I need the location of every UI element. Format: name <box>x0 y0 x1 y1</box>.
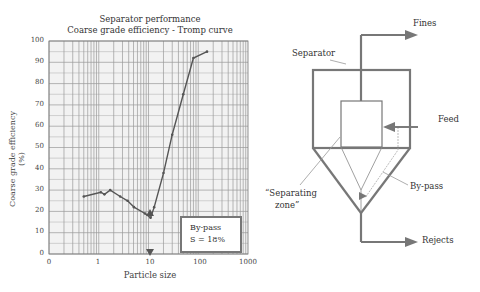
y-tick: 60 <box>18 121 44 129</box>
y-tick: 70 <box>18 100 44 108</box>
bypass-flow-arrow-icon <box>359 192 367 200</box>
separating-zone-box <box>341 101 382 147</box>
rejects-label: Rejects <box>422 235 454 245</box>
bypass-annotation-value: S = 18% <box>190 234 225 245</box>
x-tick: 100 <box>185 258 215 266</box>
plot-svg <box>0 0 480 292</box>
separator-label: Separator <box>292 48 335 58</box>
x-tick: 10 <box>135 258 165 266</box>
separating-zone-label-line2: zone” <box>275 200 299 210</box>
bypass-label: By-pass <box>410 181 443 191</box>
fines-label: Fines <box>413 18 436 28</box>
rejects-arrow-icon <box>405 237 418 247</box>
feed-label: Feed <box>438 114 459 124</box>
x-tick: 1 <box>83 258 113 266</box>
y-tick: 10 <box>18 227 44 235</box>
y-tick: 40 <box>18 164 44 172</box>
bypass-annotation-label: By-pass <box>190 222 221 233</box>
feed-arrow-icon <box>383 122 395 132</box>
y-tick: 20 <box>18 206 44 214</box>
x-tick: 1000 <box>233 258 263 266</box>
fines-arrow-icon <box>405 30 418 40</box>
y-tick: 100 <box>18 36 44 44</box>
y-tick: 30 <box>18 185 44 193</box>
y-tick: 90 <box>18 57 44 65</box>
x-axis-label: Particle size <box>100 270 200 280</box>
y-tick: 0 <box>18 249 44 257</box>
y-tick: 80 <box>18 78 44 86</box>
x-tick: 0 <box>34 258 64 266</box>
y-tick: 50 <box>18 142 44 150</box>
separating-zone-label-line1: “Separating <box>265 188 317 198</box>
